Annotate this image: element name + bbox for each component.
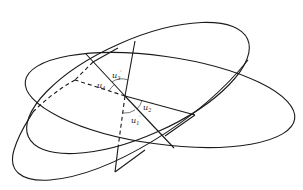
label-u4: u4 [97,81,105,91]
dashed-down [118,96,125,148]
line-to-top [125,41,135,96]
angle-arc-u4 [109,85,114,91]
label-u3: u3' [112,69,122,81]
angle-arc-u1 [123,110,135,113]
diagram-canvas: u3' u4 u2' u1' [0,0,303,190]
line-chord-right [165,115,195,136]
label-u1: u1' [131,114,141,126]
angle-arc-u2 [137,100,142,109]
ellipse-b [19,38,301,163]
line-right [125,96,195,115]
dashed-upper [75,62,93,80]
label-u2: u2' [143,101,153,113]
ellipse-a [9,0,267,181]
